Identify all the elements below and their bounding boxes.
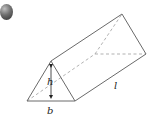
height-label: h [47, 76, 53, 87]
bottom-right-edge [75, 54, 146, 101]
top-ridge-edge [51, 14, 122, 61]
hidden-edges [27, 14, 146, 101]
back-right-edge [122, 14, 146, 54]
hidden-edge-back-left [95, 14, 122, 54]
visible-edges [27, 14, 146, 101]
prism-diagram: h b l [0, 0, 150, 127]
length-label: l [114, 80, 117, 91]
base-label: b [47, 105, 53, 116]
